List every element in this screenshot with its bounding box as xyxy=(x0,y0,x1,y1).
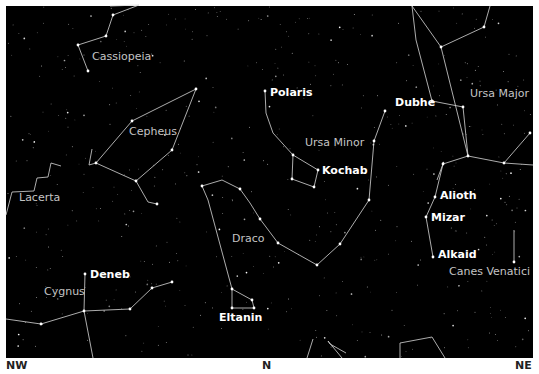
background-star xyxy=(486,245,487,246)
background-star xyxy=(504,133,505,134)
star-point xyxy=(259,218,262,221)
background-star xyxy=(467,281,468,282)
background-star xyxy=(398,124,399,125)
background-star xyxy=(474,28,475,29)
star-label: Eltanin xyxy=(219,311,262,324)
background-star xyxy=(336,315,337,316)
background-star xyxy=(498,156,499,157)
background-star xyxy=(25,260,26,261)
background-star xyxy=(83,114,85,116)
star-point xyxy=(151,287,154,290)
background-star xyxy=(524,133,525,134)
background-star xyxy=(324,277,325,278)
background-star xyxy=(23,38,25,40)
background-star xyxy=(486,215,488,217)
background-star xyxy=(48,229,49,230)
background-star xyxy=(435,115,436,116)
background-star xyxy=(165,306,166,307)
background-star xyxy=(427,117,428,118)
background-star xyxy=(267,308,269,310)
star-point xyxy=(339,243,342,246)
background-star xyxy=(134,32,135,33)
background-star xyxy=(124,41,125,42)
background-star xyxy=(492,19,493,20)
background-star xyxy=(272,79,273,80)
background-star xyxy=(154,186,155,187)
background-star xyxy=(253,212,254,213)
background-star xyxy=(130,95,131,96)
background-star xyxy=(404,325,405,326)
background-star xyxy=(147,280,148,281)
background-star xyxy=(112,201,113,202)
background-star xyxy=(427,169,428,170)
background-star xyxy=(263,160,264,161)
background-star xyxy=(62,256,63,257)
background-star xyxy=(370,332,371,333)
background-star xyxy=(23,339,24,340)
star-label: Alkaid xyxy=(438,248,477,261)
background-star xyxy=(455,230,456,231)
star-point xyxy=(95,162,98,165)
background-star xyxy=(462,13,463,14)
background-star xyxy=(482,134,483,135)
background-star xyxy=(219,229,221,231)
background-star xyxy=(140,72,141,73)
background-star xyxy=(116,103,117,104)
background-star xyxy=(505,202,506,203)
background-star xyxy=(319,295,320,296)
background-star xyxy=(334,212,335,213)
background-star xyxy=(43,23,44,24)
background-star xyxy=(327,213,328,214)
background-star xyxy=(468,347,469,348)
background-star xyxy=(439,95,440,96)
background-star xyxy=(510,172,512,174)
background-star xyxy=(452,325,454,327)
background-star xyxy=(126,46,127,47)
star-point xyxy=(529,132,532,135)
background-star xyxy=(200,315,201,316)
background-star xyxy=(216,256,217,257)
background-star xyxy=(8,193,9,194)
background-star xyxy=(151,283,152,284)
background-star xyxy=(475,312,476,313)
background-star xyxy=(500,310,501,311)
background-star xyxy=(528,330,529,331)
background-star xyxy=(502,178,503,179)
background-star xyxy=(228,166,229,167)
background-star xyxy=(29,133,30,134)
background-star xyxy=(374,127,375,128)
background-star xyxy=(37,205,38,206)
background-star xyxy=(363,256,364,257)
background-star xyxy=(342,84,343,85)
background-star xyxy=(459,285,460,286)
background-star xyxy=(523,80,524,81)
background-star xyxy=(16,256,17,257)
star-label: Dubhe xyxy=(395,96,435,109)
background-star xyxy=(444,347,445,348)
star-label: Polaris xyxy=(270,86,313,99)
star-point xyxy=(368,199,371,202)
background-star xyxy=(144,261,145,262)
background-star xyxy=(192,31,193,32)
background-star xyxy=(491,317,492,318)
background-star xyxy=(433,173,435,175)
constellation-label: Cepheus xyxy=(129,125,177,138)
background-star xyxy=(156,245,157,246)
background-star xyxy=(253,266,254,267)
background-star xyxy=(454,166,455,167)
star-point xyxy=(195,88,198,91)
background-star xyxy=(505,317,506,318)
background-star xyxy=(31,311,32,312)
background-star xyxy=(129,169,130,170)
background-star xyxy=(188,355,189,356)
background-star xyxy=(300,340,301,341)
background-star xyxy=(205,78,207,80)
background-star xyxy=(221,328,222,329)
background-star xyxy=(287,179,288,180)
background-star xyxy=(420,260,421,261)
background-star xyxy=(156,284,157,285)
background-star xyxy=(93,187,94,188)
background-star xyxy=(27,160,28,161)
background-star xyxy=(506,204,507,205)
background-star xyxy=(277,68,278,69)
